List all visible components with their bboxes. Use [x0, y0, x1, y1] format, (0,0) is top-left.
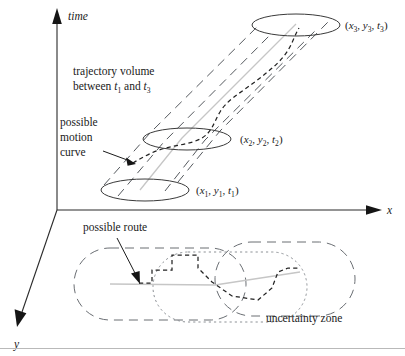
cross-section-ellipses: [101, 14, 340, 201]
label-point-2: (x2, y2, t2): [240, 133, 283, 148]
x-axis-arrowhead: [366, 205, 382, 215]
uncertainty-capsule-right: [215, 242, 355, 316]
possible-motion-line3: curve: [60, 146, 86, 158]
possible-motion-leader-line: [103, 151, 130, 161]
y-axis-arrowhead: [15, 309, 27, 327]
trajectory-volume-line1: trajectory volume: [73, 65, 154, 78]
axes-group: time x y: [13, 8, 393, 351]
label-point-1: (x1, y1, t1): [196, 184, 239, 199]
ellipse-t2: [143, 128, 231, 150]
time-axis-arrowhead: [52, 8, 62, 24]
volume-edge-right-lower: [178, 20, 330, 182]
possible-motion-line1: possible: [60, 116, 98, 129]
possible-route-leader-line: [117, 238, 136, 275]
trajectory-diagram-svg: time x y (x1, y1, t1): [0, 0, 405, 356]
svg-text:(x3, y3, t3): (x3, y3, t3): [345, 19, 388, 34]
y-axis-line: [22, 210, 57, 312]
volume-center-line: [140, 24, 296, 190]
coordinate-labels: (x1, y1, t1) (x2, y2, t2) (x3, y3, t3): [196, 19, 388, 199]
trajectory-volume-annotation: trajectory volume between t1 and t3: [73, 65, 154, 95]
possible-route-leader-arrowhead: [131, 271, 140, 284]
trajectory-volume-line2: between t1 and t3: [73, 80, 151, 95]
possible-motion-annotation: possible motion curve: [60, 116, 136, 166]
possible-route-label: possible route: [83, 221, 147, 234]
uncertainty-zone-group: possible route uncertainty zone: [74, 221, 355, 325]
svg-text:(x2, y2, t2): (x2, y2, t2): [240, 133, 283, 148]
y-axis-label: y: [13, 338, 20, 351]
label-point-3: (x3, y3, t3): [345, 19, 388, 34]
figure-root: time x y (x1, y1, t1): [0, 0, 405, 356]
tv-t3-sub: 3: [147, 86, 151, 95]
x-axis-label: x: [386, 204, 393, 216]
trajectory-volume-group: [104, 20, 330, 196]
tv-between: between: [73, 80, 114, 92]
possible-motion-line2: motion: [60, 131, 93, 143]
time-axis-label: time: [68, 10, 88, 22]
tv-and: and: [121, 80, 143, 92]
volume-edge-left-lower: [118, 33, 272, 196]
svg-text:(x1, y1, t1): (x1, y1, t1): [196, 184, 239, 199]
uncertainty-zone-label: uncertainty zone: [266, 312, 342, 325]
ellipse-t1: [101, 179, 189, 201]
